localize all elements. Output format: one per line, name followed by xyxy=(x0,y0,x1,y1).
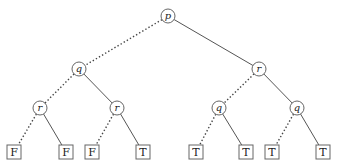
decision-node-q: q xyxy=(72,62,86,76)
leaf-node-F: F xyxy=(7,145,21,159)
edges-layer xyxy=(18,20,319,146)
low-edge-n4-l2 xyxy=(96,114,114,145)
high-edge-n2-n6 xyxy=(264,74,292,103)
leaf-label: F xyxy=(10,146,18,159)
decision-node-r: r xyxy=(110,101,124,115)
low-edge-n0-n1 xyxy=(85,20,162,66)
leaf-label: T xyxy=(242,146,250,159)
low-edge-n6-l6 xyxy=(276,114,294,145)
leaf-node-T: T xyxy=(189,145,203,159)
high-edge-n6-l7 xyxy=(301,114,319,145)
high-edge-n4-l3 xyxy=(121,114,139,145)
high-edge-n3-l1 xyxy=(44,114,62,145)
decision-node-q: q xyxy=(290,101,304,115)
leaf-label: T xyxy=(192,146,200,159)
node-variable-label: q xyxy=(216,102,222,113)
leaf-node-T: T xyxy=(239,145,253,159)
leaf-node-T: T xyxy=(136,145,150,159)
node-variable-label: q xyxy=(294,102,300,113)
leaf-label: T xyxy=(139,146,147,159)
high-edge-n0-n2 xyxy=(174,20,253,66)
low-edge-n3-l0 xyxy=(18,114,36,145)
decision-node-p: p xyxy=(161,9,175,23)
low-edge-n5-l4 xyxy=(200,114,216,145)
leaf-node-T: T xyxy=(316,145,330,159)
tree-canvas: pqrrrqqFFFTTTTT xyxy=(0,0,337,167)
node-variable-label: p xyxy=(165,10,172,21)
leaf-node-T: T xyxy=(265,145,279,159)
decision-node-r: r xyxy=(33,101,47,115)
leaf-label: F xyxy=(88,146,96,159)
low-edge-n2-n5 xyxy=(224,74,254,103)
high-edge-n5-l5 xyxy=(223,114,242,145)
high-edge-n1-n4 xyxy=(84,74,112,103)
leaf-node-F: F xyxy=(59,145,73,159)
low-edge-n1-n3 xyxy=(45,74,74,103)
decision-node-r: r xyxy=(252,62,266,76)
binary-decision-tree: pqrrrqqFFFTTTTT xyxy=(0,0,337,167)
leaf-label: T xyxy=(319,146,327,159)
node-variable-label: q xyxy=(76,63,82,74)
leaf-node-F: F xyxy=(85,145,99,159)
leaf-label: F xyxy=(62,146,70,159)
decision-node-q: q xyxy=(212,101,226,115)
leaf-label: T xyxy=(268,146,276,159)
